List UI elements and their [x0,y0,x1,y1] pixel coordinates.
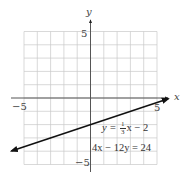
x-axis-label: x [174,92,180,102]
equation-standard-form: 4x − 12y = 24 [92,142,151,154]
y-tick-label-neg5: −5 [75,158,90,168]
eq1-rhs: x − 2 [127,122,149,133]
eq1-fraction: 13 [120,121,126,136]
x-tick-label-5: 5 [154,103,160,113]
eq1-lhs: y = [102,122,119,133]
equation-slope-intercept: y = 13x − 2 [102,121,148,136]
y-tick-label-5: 5 [81,29,87,39]
eq1-denominator: 3 [120,129,126,136]
y-axis-label: y [86,7,92,17]
x-tick-label-neg5: −5 [12,102,27,112]
